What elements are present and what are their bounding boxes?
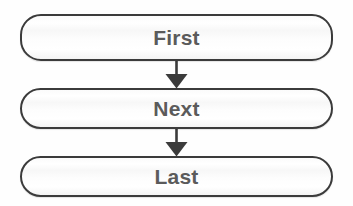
flow-node-label: First [153, 27, 200, 48]
arrow-first-to-next [166, 61, 188, 89]
flow-node-label: Next [153, 98, 199, 119]
flowchart-canvas: First Next Last [0, 0, 353, 206]
flow-node-first[interactable]: First [20, 14, 333, 61]
arrow-next-to-last [166, 129, 188, 157]
flow-node-label: Last [155, 166, 199, 187]
flow-node-last[interactable]: Last [20, 156, 333, 197]
flow-node-next[interactable]: Next [20, 88, 333, 129]
